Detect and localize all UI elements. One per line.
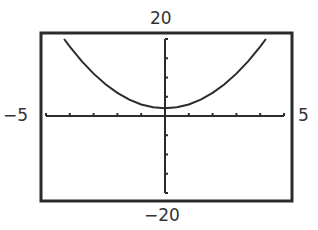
xmax-label: 5 (298, 107, 309, 124)
xmin-label: −5 (3, 107, 28, 124)
ymax-label: 20 (150, 10, 172, 27)
graph-canvas (0, 0, 318, 230)
ymin-label: −20 (144, 207, 180, 224)
